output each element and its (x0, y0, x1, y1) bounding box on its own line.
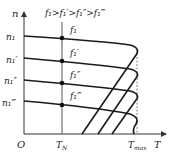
freq-label-f1-triple-prime: f₁‴ (69, 91, 82, 101)
freq-label-f1: f₁ (69, 25, 77, 35)
freq-label-f1-prime: f₁′ (69, 48, 79, 58)
x-axis-label: T (154, 139, 162, 150)
speed-label-n1-double-prime: n₁″ (4, 76, 17, 86)
point-f1-prime (60, 59, 65, 64)
origin-label: O (17, 139, 25, 150)
tmax-label: Tmax (128, 140, 147, 151)
y-axis-label: n (12, 8, 18, 19)
speed-label-n1-triple-prime: n₁‴ (2, 98, 16, 108)
curve-f1-triple-prime (24, 101, 137, 134)
point-f1 (60, 36, 65, 41)
frequency-relation-title: f₁>f₁′>f₁″>f₁‴ (44, 8, 106, 18)
speed-label-n1-prime: n₁′ (6, 55, 17, 65)
tn-label: TN (56, 140, 68, 151)
freq-label-f1-double-prime: f₁″ (69, 70, 81, 80)
vf-torque-speed-diagram: n T O f₁>f₁′>f₁″>f₁‴ TN Tmax n₁ n₁′ n₁″ … (0, 0, 174, 156)
point-f1-triple-prime (60, 103, 65, 108)
point-f1-double-prime (60, 81, 65, 86)
speed-label-n1: n₁ (6, 32, 15, 42)
speed-curves (24, 36, 138, 134)
